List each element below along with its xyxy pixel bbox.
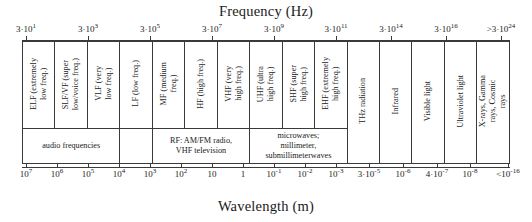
frequency-tick-mark: [26, 36, 27, 40]
frequency-tick-label: 3·1014: [379, 25, 403, 34]
frequency-tick-label: 3·109: [264, 25, 284, 34]
band-label: VLF (very low freq.): [94, 66, 114, 101]
wavelength-tick-label: 107: [20, 170, 33, 179]
frequency-tick-label: 3·101: [16, 25, 36, 34]
frequency-tick-label: 3·103: [78, 25, 98, 34]
wavelength-tick-label: 105: [82, 170, 95, 179]
category-cell: microwaves; millimeter, submillimeterwav…: [250, 129, 347, 164]
wavelength-tick-mark: [57, 163, 58, 167]
band-cell-uv: Ultraviolet light: [444, 42, 476, 164]
category-cell-empty: [120, 129, 152, 164]
frequency-tick-mark: [274, 36, 275, 40]
band-label: MF (medium freq.): [159, 62, 179, 105]
wavelength-tick-label: 1: [241, 170, 246, 179]
frequency-tick-mark: [88, 36, 89, 40]
frequency-tick-mark: [446, 36, 447, 40]
band-label: Ultraviolet light: [456, 75, 466, 128]
frequency-tick-label: 3·1011: [324, 25, 347, 34]
band-label: ELF (extremely low freq.): [29, 58, 49, 110]
band-cell-uhf: UHF (ultra high freq.): [250, 42, 282, 129]
frequency-tick-label: 3·107: [202, 25, 222, 34]
wavelength-tick-label: 102: [175, 170, 188, 179]
wavelength-tick-mark: [212, 163, 213, 167]
frequency-tick-label: >3·1024: [487, 25, 516, 34]
wavelength-tick-mark: [508, 163, 509, 167]
wavelength-tick-label: 10-3: [329, 170, 344, 179]
band-label: Infrared: [391, 88, 401, 114]
wavelength-tick-mark: [181, 163, 182, 167]
electromagnetic-spectrum-figure: Frequency (Hz) 3·1013·1033·1053·1073·109…: [0, 0, 532, 222]
band-label: UHF (ultra high freq.): [256, 66, 276, 102]
band-cell-lf: LF (low freq.): [120, 42, 152, 129]
wavelength-tick-mark: [437, 163, 438, 167]
frequency-tick-mark: [336, 36, 337, 40]
wavelength-axis-line: [22, 167, 510, 168]
band-cell-mf: MF (medium freq.): [152, 42, 184, 129]
band-label: SLF/VF (super low/voice freq.): [61, 58, 81, 110]
frequency-axis-title: Frequency (Hz): [0, 3, 532, 20]
wavelength-tick-label: 10-6: [396, 170, 411, 179]
frequency-tick-mark: [212, 36, 213, 40]
band-label: SHF (super high freq.): [289, 65, 309, 103]
band-cell-hf: HF (high freq.): [185, 42, 217, 129]
band-label: THz radiation: [358, 78, 368, 124]
band-label: X-rays, Gamma rays, Cosmic rays: [478, 75, 508, 127]
wavelength-tick-label: 10-1: [267, 170, 282, 179]
wavelength-tick-mark: [369, 163, 370, 167]
band-label: Visible light: [423, 81, 433, 121]
wavelength-tick-label: <10-16: [496, 170, 519, 179]
wavelength-tick-label: 10: [208, 170, 217, 179]
band-cell-elf: ELF (extremely low freq.): [23, 42, 55, 129]
wavelength-tick-label: 104: [113, 170, 126, 179]
category-cell: audio frequencies: [23, 129, 120, 164]
wavelength-tick-label: 106: [51, 170, 64, 179]
wavelength-tick-mark: [26, 163, 27, 167]
wavelength-tick-label: 103: [144, 170, 157, 179]
band-label: HF (high freq.): [196, 59, 206, 109]
spectrum-table: ELF (extremely low freq.)SLF/VF (super l…: [22, 41, 510, 164]
band-cell-vis: Visible light: [412, 42, 444, 164]
frequency-tick-labels: 3·1013·1033·1053·1073·1093·10113·10143·1…: [0, 25, 532, 39]
band-cell-shf: SHF (super high freq.): [282, 42, 314, 129]
band-cell-ir: Infrared: [379, 42, 411, 164]
band-cell-vhf: VHF (very high freq.): [217, 42, 249, 129]
wavelength-tick-mark: [150, 163, 151, 167]
wavelength-tick-label: 10-8: [463, 170, 478, 179]
wavelength-tick-label: 10-2: [298, 170, 313, 179]
band-cell-thz: THz radiation: [347, 42, 379, 164]
frequency-tick-label: 3·1016: [434, 25, 458, 34]
wavelength-axis-title: Wavelength (m): [0, 198, 532, 215]
band-cell-slfvf: SLF/VF (super low/voice freq.): [55, 42, 87, 129]
band-label: VHF (very high freq.): [224, 66, 244, 102]
wavelength-tick-label: 4·10-7: [426, 170, 448, 179]
band-row: ELF (extremely low freq.)SLF/VF (super l…: [23, 42, 510, 129]
band-cell-xgc: X-rays, Gamma rays, Cosmic rays: [477, 42, 510, 164]
band-cell-ehf: EHF (extremely high freq.): [315, 42, 347, 129]
frequency-tick-mark: [501, 36, 502, 40]
wavelength-tick-mark: [119, 163, 120, 167]
wavelength-tick-mark: [243, 163, 244, 167]
category-cell: RF: AM/FM radio, VHF television: [152, 129, 249, 164]
wavelength-tick-mark: [88, 163, 89, 167]
frequency-tick-label: 3·105: [140, 25, 160, 34]
frequency-tick-mark: [391, 36, 392, 40]
wavelength-tick-label: 3·10-5: [358, 170, 380, 179]
wavelength-tick-labels: 10710610510410310210110-110-210-33·10-51…: [0, 170, 532, 184]
frequency-tick-mark: [150, 36, 151, 40]
band-label: EHF (extremely high freq.): [321, 57, 341, 110]
band-cell-vlf: VLF (very low freq.): [87, 42, 119, 129]
band-label: LF (low freq.): [131, 60, 141, 107]
